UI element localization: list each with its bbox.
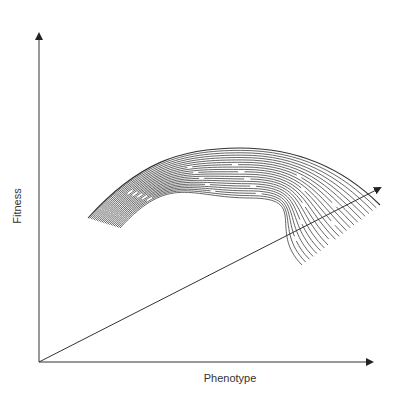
- surface-curve: [115, 188, 313, 257]
- surface-curve: [88, 148, 380, 218]
- surface-curve: [118, 191, 305, 262]
- fitness-landscape-diagram: [0, 0, 401, 406]
- x-axis-label: Phenotype: [190, 372, 270, 384]
- y-axis-label: Fitness: [11, 181, 23, 231]
- surface-curve: [120, 192, 302, 265]
- depth-axis: [39, 188, 380, 362]
- surface-curves: [88, 148, 380, 265]
